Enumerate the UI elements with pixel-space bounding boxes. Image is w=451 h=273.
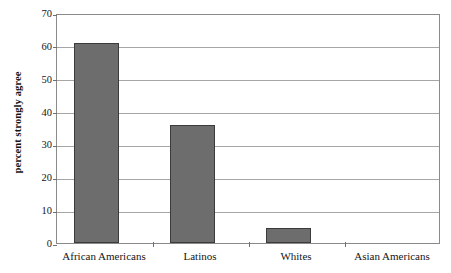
y-tick-label: 50 (32, 75, 52, 85)
y-axis-title-text: percent strongly agree (13, 71, 24, 173)
x-tick-mark (249, 242, 250, 247)
x-tick-mark (153, 242, 154, 247)
x-axis-tick-labels: African AmericansLatinosWhitesAsian Amer… (56, 249, 440, 269)
bar-chart: percent strongly agree 010203040506070 A… (0, 0, 451, 273)
y-tick-label: 10 (32, 206, 52, 216)
bar (266, 228, 311, 243)
y-tick-label: 30 (32, 140, 52, 150)
y-tick-mark (53, 245, 57, 246)
y-tick-mark (53, 179, 57, 180)
y-axis-tick-labels: 010203040506070 (28, 0, 52, 273)
x-tick-mark (345, 242, 346, 247)
y-tick-mark (53, 113, 57, 114)
y-tick-mark (53, 212, 57, 213)
y-tick-label: 0 (32, 239, 52, 249)
y-tick-label: 20 (32, 173, 52, 183)
y-tick-label: 70 (32, 9, 52, 19)
x-tick-label: Latinos (184, 249, 217, 263)
y-tick-mark (53, 80, 57, 81)
y-tick-mark (53, 47, 57, 48)
bar (170, 125, 215, 243)
x-tick-label: Asian Americans (354, 249, 429, 263)
x-tick-label: African Americans (62, 249, 145, 263)
bar (74, 43, 119, 243)
y-tick-mark (53, 15, 57, 16)
plot-area (56, 14, 440, 244)
x-tick-label: Whites (280, 249, 311, 263)
y-tick-label: 40 (32, 108, 52, 118)
y-tick-label: 60 (32, 42, 52, 52)
y-tick-mark (53, 146, 57, 147)
